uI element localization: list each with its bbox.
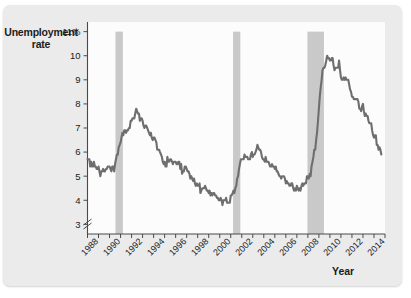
x-axis-title: Year bbox=[332, 265, 354, 277]
svg-text:4: 4 bbox=[75, 195, 80, 206]
y-axis-title: Unemployment rate bbox=[2, 26, 80, 50]
svg-text:1994: 1994 bbox=[145, 236, 166, 257]
unemployment-rate-chart: Unemployment rate Year 34567891011% 1988… bbox=[0, 0, 411, 298]
svg-text:1996: 1996 bbox=[167, 236, 188, 257]
y-axis-title-line2: rate bbox=[2, 38, 80, 50]
svg-text:10: 10 bbox=[70, 50, 81, 61]
svg-text:9: 9 bbox=[75, 74, 80, 85]
svg-text:1992: 1992 bbox=[123, 236, 144, 257]
svg-text:8: 8 bbox=[75, 98, 80, 109]
svg-text:2014: 2014 bbox=[365, 236, 386, 257]
x-tick-labels: 1988199019921994199619982000200220042006… bbox=[79, 236, 387, 257]
svg-text:2002: 2002 bbox=[233, 236, 254, 257]
svg-text:2008: 2008 bbox=[299, 236, 320, 257]
svg-text:5: 5 bbox=[75, 171, 80, 182]
y-tick-labels: 34567891011% bbox=[62, 26, 81, 230]
svg-text:1988: 1988 bbox=[79, 236, 100, 257]
svg-text:2006: 2006 bbox=[277, 236, 298, 257]
svg-text:1990: 1990 bbox=[101, 236, 122, 257]
svg-text:3: 3 bbox=[75, 219, 80, 230]
svg-text:1998: 1998 bbox=[189, 236, 210, 257]
svg-text:7: 7 bbox=[75, 122, 80, 133]
svg-text:2010: 2010 bbox=[321, 236, 342, 257]
svg-text:2000: 2000 bbox=[211, 236, 232, 257]
y-axis-title-line1: Unemployment bbox=[2, 26, 80, 38]
svg-text:2004: 2004 bbox=[255, 236, 276, 257]
svg-text:2012: 2012 bbox=[343, 236, 364, 257]
svg-text:6: 6 bbox=[75, 146, 80, 157]
